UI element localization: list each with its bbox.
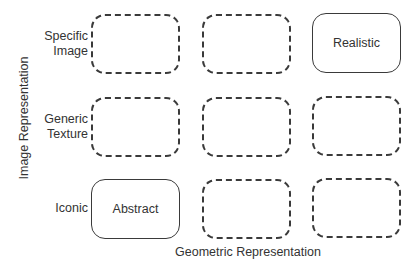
cell-iconic-col-3 [312, 178, 401, 238]
row-label-specific-image: Specific Image [44, 29, 88, 59]
x-axis-label: Geometric Representation [175, 245, 321, 259]
cell-iconic-col-2 [202, 179, 291, 239]
cell-abstract: Abstract [91, 179, 180, 239]
cell-specific-image-col-2 [202, 14, 291, 74]
representation-matrix-diagram: Image Representation Specific Image Gene… [0, 0, 420, 264]
row-label-iconic: Iconic [55, 201, 88, 216]
cell-specific-image-col-1 [91, 14, 180, 74]
cell-generic-texture-col-2 [202, 97, 291, 157]
cell-text-realistic: Realistic [333, 36, 380, 50]
row-label-generic-texture: Generic Texture [44, 112, 88, 142]
y-axis-label: Image Representation [17, 57, 31, 180]
cell-generic-texture-col-3 [312, 96, 401, 156]
cell-text-abstract: Abstract [113, 202, 159, 216]
cell-generic-texture-col-1 [91, 97, 180, 157]
cell-realistic: Realistic [312, 13, 401, 73]
